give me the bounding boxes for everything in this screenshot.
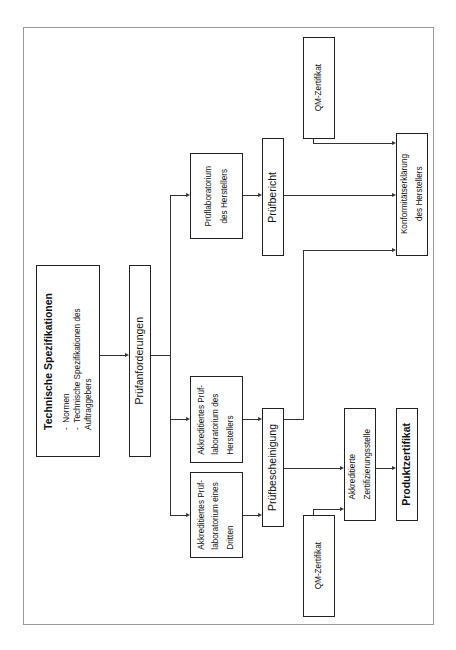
- arrow-right-icon: [340, 507, 344, 511]
- tech-spec-content: Technische Spezifikationen - Normen - Te…: [41, 293, 94, 430]
- arrow-right-icon: [392, 193, 396, 197]
- connector: [151, 355, 171, 356]
- tech-spec-bullet-1: - Normen: [61, 293, 72, 430]
- arrow-right-icon: [392, 466, 396, 470]
- arrow-right-icon: [258, 513, 262, 517]
- connector: [243, 195, 258, 196]
- arrow-right-icon: [392, 248, 396, 252]
- produktzertifikat-label: Produktzertifikat: [399, 423, 414, 506]
- arrow-right-icon: [186, 513, 190, 517]
- pruefanforderungen-label: Prüfanforderungen: [132, 317, 147, 405]
- connector: [243, 515, 258, 516]
- arrow-right-icon: [392, 141, 396, 145]
- arrow-right-icon: [186, 193, 190, 197]
- connector: [284, 419, 304, 420]
- arrow-right-icon: [340, 466, 344, 470]
- pruefbescheinigung-label: Prüfbescheinigung: [265, 424, 280, 511]
- akkr-zert-box: Akkreditierte Zertifizierungsstelle: [344, 408, 376, 521]
- connector: [100, 355, 125, 356]
- connector: [303, 250, 392, 251]
- tech-spec-box: Technische Spezifikationen - Normen - Te…: [36, 265, 100, 457]
- akkr-lab-dritter-box: Akkreditiertes Prüf- laboratorium eines …: [190, 472, 243, 558]
- lab-hersteller-label: Prüflaboratorium des Herstellers: [201, 166, 232, 227]
- lab-hersteller-box: Prüflaboratorium des Herstellers: [190, 153, 243, 239]
- arrow-right-icon: [258, 193, 262, 197]
- produktzertifikat-box: Produktzertifikat: [396, 408, 418, 521]
- qm-zertifikat-top-box: QM-Zertifikat: [303, 37, 335, 139]
- tech-spec-bullet-2-cont: Auftraggebers: [84, 293, 95, 430]
- connector: [170, 195, 171, 516]
- pruefbescheinigung-box: Prüfbescheinigung: [262, 408, 284, 527]
- connector: [284, 468, 340, 469]
- arrow-right-icon: [186, 417, 190, 421]
- konformitaet-box: Konformitätserklärung des Herstellers: [396, 133, 428, 256]
- pruefbericht-box: Prüfbericht: [262, 138, 284, 256]
- pruefbericht-label: Prüfbericht: [265, 172, 280, 223]
- connector: [170, 515, 186, 516]
- konformitaet-label: Konformitätserklärung des Herstellers: [397, 154, 427, 234]
- connector: [313, 509, 340, 510]
- tech-spec-title: Technische Spezifikationen: [41, 293, 55, 430]
- connector: [284, 195, 392, 196]
- akkr-lab-hersteller-box: Akkreditiertes Prüf- laboratorium des He…: [190, 376, 243, 463]
- connector: [303, 250, 304, 420]
- akkr-zert-label: Akkreditierte Zertifizierungsstelle: [345, 429, 375, 500]
- qm-zertifikat-top-label: QM-Zertifikat: [313, 64, 325, 111]
- arrow-right-icon: [258, 417, 262, 421]
- bullet-icon: -: [74, 427, 83, 430]
- connector: [170, 195, 186, 196]
- connector: [313, 143, 392, 144]
- akkr-lab-dritter-label: Akkreditiertes Prüf- laboratorium eines …: [195, 480, 238, 550]
- bullet-icon: -: [62, 427, 71, 430]
- connector: [376, 468, 392, 469]
- akkr-lab-hersteller-label: Akkreditiertes Prüf- laboratorium des He…: [195, 385, 238, 455]
- qm-zertifikat-bottom-label: QM-Zertifikat: [313, 542, 325, 589]
- qm-zertifikat-bottom-box: QM-Zertifikat: [303, 515, 335, 617]
- pruefanforderungen-box: Prüfanforderungen: [129, 265, 151, 457]
- connector: [170, 419, 186, 420]
- arrow-right-icon: [125, 353, 129, 357]
- tech-spec-bullet-2: - Technische Spezifikationen des: [73, 293, 84, 430]
- connector: [243, 419, 258, 420]
